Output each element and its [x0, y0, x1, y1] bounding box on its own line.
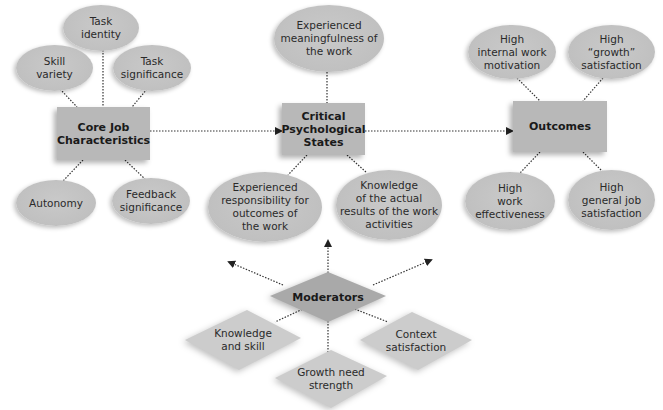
node-text: Experienced — [296, 19, 361, 31]
node-text: significance — [120, 201, 182, 213]
node-text: High — [498, 182, 522, 194]
node-work-effectiveness: Highworkeffectiveness — [465, 172, 555, 230]
diamond-title: Moderators — [292, 291, 363, 304]
diamond-text: and skill — [221, 340, 264, 352]
node-general-job-satisfaction: Highgeneral jobsatisfaction — [568, 170, 655, 230]
node-task-significance: Tasksignificance — [113, 45, 191, 91]
node-text: Knowledge — [360, 179, 418, 191]
node-skill-variety: Skillvariety — [16, 45, 93, 91]
node-text: general job — [582, 194, 641, 206]
box-title: Characteristics — [57, 134, 150, 147]
node-text: Autonomy — [29, 197, 83, 210]
connector-task-significance — [132, 89, 147, 107]
node-text: satisfaction — [581, 207, 641, 219]
node-text: internal work — [477, 46, 546, 58]
node-text: work — [497, 195, 522, 207]
box-title: Critical — [301, 110, 345, 123]
box-title: Outcomes — [529, 120, 591, 133]
diamond-text: strength — [309, 379, 353, 391]
connector-work-effectiveness — [520, 152, 540, 173]
node-text: High — [599, 181, 623, 193]
node-experienced-responsibility: Experiencedresponsibility foroutcomes of… — [208, 172, 322, 242]
node-text: outcomes of — [232, 207, 297, 219]
node-text: satisfaction — [581, 59, 641, 71]
node-feedback-significance: Feedbacksignificance — [112, 178, 190, 224]
node-internal-work-motivation: Highinternal workmotivation — [468, 25, 556, 79]
diamond-text: satisfaction — [386, 341, 446, 353]
diamond-text: Context — [395, 328, 436, 340]
node-autonomy: Autonomy — [16, 180, 96, 226]
node-text: Experienced — [232, 181, 297, 193]
connector-growth-satisfaction — [583, 78, 603, 101]
diamond-text: Knowledge — [214, 327, 272, 339]
node-text: Feedback — [126, 188, 176, 200]
node-text: the work — [242, 220, 288, 232]
node-text: results of the work — [340, 205, 438, 217]
node-text: meaningfulness of — [281, 32, 378, 44]
node-task-identity: Taskidentity — [63, 5, 139, 51]
node-text: the work — [306, 45, 352, 57]
node-growth-satisfaction: High“growth”satisfaction — [568, 25, 655, 79]
node-text: responsibility for — [221, 194, 309, 206]
node-text: of the actual — [356, 192, 422, 204]
diamond-context-satisfaction: Contextsatisfaction — [360, 312, 472, 370]
node-text: activities — [365, 218, 412, 230]
connector-feedback — [125, 160, 145, 179]
node-text: Skill — [44, 55, 66, 67]
connector-knowledge-results — [347, 155, 367, 173]
box-title: Psychological — [281, 123, 365, 136]
node-text: High — [599, 33, 623, 45]
node-experienced-meaningfulness: Experiencedmeaningfulness ofthe work — [274, 5, 384, 72]
box-title: Core Job — [78, 121, 130, 134]
diamond-text: Growth need — [297, 366, 365, 378]
node-text: variety — [36, 68, 73, 80]
node-text: significance — [121, 68, 183, 80]
node-text: “growth” — [588, 46, 635, 58]
node-text: effectiveness — [475, 208, 545, 220]
connector-skill-variety — [60, 89, 77, 107]
node-text: Task — [90, 15, 113, 27]
box-outcomes: Outcomes — [513, 101, 607, 152]
node-text: Task — [141, 55, 164, 67]
node-text: motivation — [484, 59, 540, 71]
box-critical-psychological-states: CriticalPsychologicalStates — [282, 103, 365, 155]
node-text: identity — [81, 28, 121, 40]
connector-internal-motivation — [517, 78, 540, 101]
node-knowledge-of-results: Knowledgeof the actualresults of the wor… — [336, 170, 442, 240]
connector-general-satisfaction — [583, 152, 603, 172]
box-core-job-characteristics: Core JobCharacteristics — [57, 107, 150, 160]
connector-autonomy — [63, 160, 83, 181]
connector-responsibility — [288, 155, 307, 175]
node-text: High — [500, 33, 524, 45]
box-title: States — [304, 136, 344, 149]
